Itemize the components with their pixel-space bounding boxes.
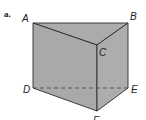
vertex-label-c: C — [99, 47, 107, 58]
vertex-label-e: E — [131, 84, 138, 95]
triangular-prism-diagram: a. A B C D E F — [0, 0, 146, 120]
vertex-label-f: F — [93, 115, 100, 120]
vertex-label-b: B — [130, 11, 137, 22]
vertex-label-a: A — [21, 13, 29, 24]
part-label: a. — [4, 9, 11, 19]
vertex-label-d: D — [23, 84, 30, 95]
